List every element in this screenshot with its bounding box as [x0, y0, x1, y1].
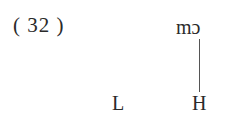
- example-number: ( 32 ): [13, 15, 65, 36]
- association-line: [199, 39, 200, 92]
- syllable-mo: mɔ: [176, 17, 200, 37]
- tone-high: H: [192, 93, 206, 113]
- tone-low: L: [112, 93, 124, 113]
